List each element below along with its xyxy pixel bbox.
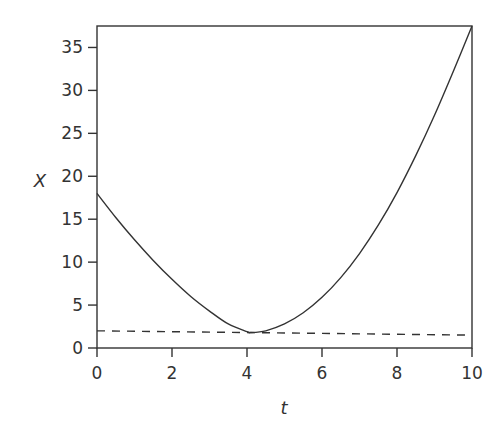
x-tick-label: 10 (461, 363, 483, 383)
x-tick-label: 0 (92, 363, 103, 383)
reference-line (97, 331, 472, 335)
y-tick-label: 10 (61, 252, 83, 272)
y-tick-label: 30 (61, 80, 83, 100)
plot-border (97, 26, 472, 348)
trajectory-line (97, 26, 472, 333)
y-tick-label: 25 (61, 123, 83, 143)
y-tick-label: 15 (61, 209, 83, 229)
x-axis: 0246810 (92, 348, 483, 383)
line-chart: 05101520253035 0246810 t X (0, 0, 498, 434)
x-tick-label: 4 (242, 363, 253, 383)
x-tick-label: 2 (167, 363, 178, 383)
y-axis-label: X (33, 170, 47, 191)
x-axis-label: t (280, 397, 288, 418)
y-tick-label: 20 (61, 166, 83, 186)
y-tick-label: 5 (72, 295, 83, 315)
y-tick-label: 0 (72, 338, 83, 358)
plot-series (97, 26, 472, 335)
x-tick-label: 8 (392, 363, 403, 383)
x-tick-label: 6 (317, 363, 328, 383)
plot-frame (97, 26, 472, 348)
y-tick-label: 35 (61, 37, 83, 57)
y-axis: 05101520253035 (61, 37, 97, 358)
